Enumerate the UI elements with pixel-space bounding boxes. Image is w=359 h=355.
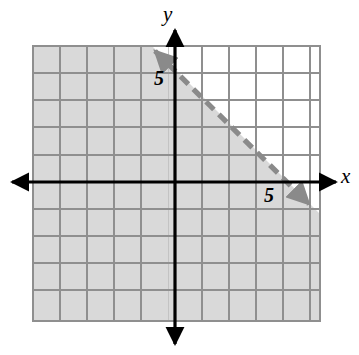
y-axis-tick-label-5: 5 — [154, 68, 164, 88]
x-axis-label: x — [341, 166, 350, 187]
coordinate-plane-svg — [0, 0, 359, 355]
x-axis-tick-label-5: 5 — [264, 185, 274, 205]
y-axis-label: y — [163, 4, 172, 25]
graph-figure: y x 5 5 — [0, 0, 359, 355]
